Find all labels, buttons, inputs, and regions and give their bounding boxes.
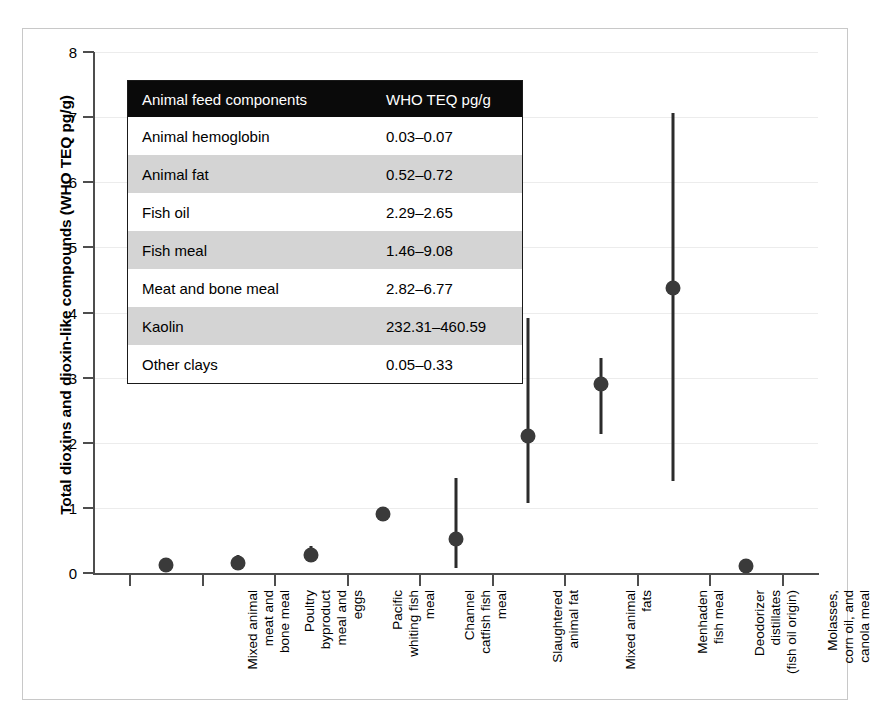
table-row: Animal fat0.52–0.72 [128, 155, 522, 193]
gridline [93, 52, 818, 53]
x-axis-category-label: Mixed animal meat and bone meal [245, 590, 293, 710]
x-axis-tick [782, 575, 784, 586]
data-point [521, 429, 536, 444]
y-axis-tick [83, 246, 94, 248]
x-axis-tick [709, 575, 711, 586]
y-axis-tick-label: 5 [47, 240, 77, 255]
x-axis-tick [274, 575, 276, 586]
y-axis-tick [83, 572, 94, 574]
data-point [231, 556, 246, 571]
y-axis-tick [83, 377, 94, 379]
data-point [738, 559, 753, 574]
table-cell-value: 1.46–9.08 [378, 242, 522, 259]
y-axis-tick-label: 8 [47, 45, 77, 60]
x-axis-category-label: Poultry byproduct meal and eggs [302, 590, 366, 710]
table-row: Kaolin232.31–460.59 [128, 307, 522, 345]
y-axis-tick-label: 0 [47, 566, 77, 581]
x-axis-category-label: Deodorizer distillates (fish oil origin) [752, 590, 800, 710]
x-axis-tick [129, 575, 131, 586]
data-point [158, 557, 173, 572]
table-cell-component: Fish oil [128, 204, 378, 221]
table-row: Animal hemoglobin0.03–0.07 [128, 117, 522, 155]
table-header-row: Animal feed components WHO TEQ pg/g [128, 81, 522, 117]
figure-panel: Total dioxins and dioxin-like compounds … [0, 0, 874, 727]
table-cell-value: 2.29–2.65 [378, 204, 522, 221]
x-axis-tick [347, 575, 349, 586]
table-cell-value: 0.03–0.07 [378, 128, 522, 145]
data-point [448, 532, 463, 547]
table-row: Fish meal1.46–9.08 [128, 231, 522, 269]
x-axis-tick [202, 575, 204, 586]
table-row: Meat and bone meal2.82–6.77 [128, 269, 522, 307]
x-axis-category-label: Channel catfish fish meal [462, 590, 510, 710]
x-axis-tick [492, 575, 494, 586]
gridline [93, 443, 818, 444]
table-row: Fish oil2.29–2.65 [128, 193, 522, 231]
table-cell-value: 0.52–0.72 [378, 166, 522, 183]
y-axis-tick-label: 7 [47, 110, 77, 125]
table-row: Other clays0.05–0.33 [128, 345, 522, 383]
x-axis-category-label: Molasses, corn oil, and canola meal [825, 590, 873, 710]
table-cell-component: Animal hemoglobin [128, 128, 378, 145]
table-header-component: Animal feed components [128, 91, 378, 108]
y-axis-tick-label: 2 [47, 436, 77, 451]
table-cell-component: Fish meal [128, 242, 378, 259]
y-axis-tick [83, 51, 94, 53]
table-cell-component: Animal fat [128, 166, 378, 183]
data-point [666, 280, 681, 295]
data-point [303, 547, 318, 562]
table-cell-component: Meat and bone meal [128, 280, 378, 297]
table-header-value: WHO TEQ pg/g [378, 91, 522, 108]
error-bar [599, 358, 602, 434]
y-axis-tick [83, 181, 94, 183]
y-axis-tick [83, 312, 94, 314]
y-axis-tick [83, 442, 94, 444]
error-bar [672, 113, 675, 481]
x-axis-category-label: Slaughtered animal fat [550, 590, 582, 710]
y-axis-tick-label: 6 [47, 175, 77, 190]
error-bar [527, 318, 530, 503]
table-cell-component: Kaolin [128, 318, 378, 335]
table-cell-value: 232.31–460.59 [378, 318, 522, 335]
table-cell-component: Other clays [128, 356, 378, 373]
y-axis-tick-label: 3 [47, 371, 77, 386]
data-point [376, 507, 391, 522]
y-axis-tick-label: 4 [47, 306, 77, 321]
error-bar [454, 478, 457, 568]
y-axis-tick-label: 1 [47, 501, 77, 516]
x-axis-tick [419, 575, 421, 586]
table-cell-value: 2.82–6.77 [378, 280, 522, 297]
table-cell-value: 0.05–0.33 [378, 356, 522, 373]
x-axis-category-label: Menhaden fish meal [695, 590, 727, 710]
x-axis-category-label: Pacific whiting fish meal [390, 590, 438, 710]
y-axis-tick [83, 507, 94, 509]
x-axis-tick [637, 575, 639, 586]
data-point [593, 377, 608, 392]
y-axis-tick [83, 116, 94, 118]
inset-data-table: Animal feed components WHO TEQ pg/g Anim… [127, 80, 523, 384]
x-axis-tick [564, 575, 566, 586]
x-axis-category-label: Mixed animal fats [623, 590, 655, 710]
